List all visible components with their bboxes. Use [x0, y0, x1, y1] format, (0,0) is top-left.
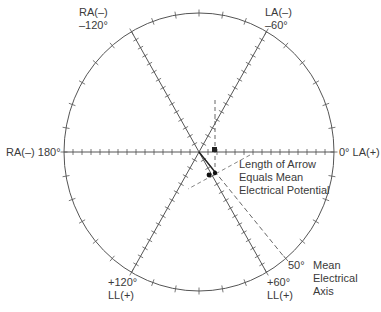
axis-tick: [151, 70, 156, 73]
label-ll-60: +60° LL(+): [267, 276, 293, 302]
label-arrow-note: Length of Arrow Equals Mean Electrical P…: [239, 158, 330, 197]
axis-tick: [205, 167, 210, 170]
circle-tick: [79, 220, 85, 224]
axis-tick: [165, 207, 170, 210]
label-line: –60°: [265, 19, 292, 32]
circle-tick: [130, 29, 134, 35]
label-la-minus-60: LA(–) –60°: [265, 6, 292, 32]
axis-tick: [250, 54, 255, 57]
axis-tick: [174, 110, 179, 113]
axis-tick: [201, 142, 206, 145]
label-line: –120°: [79, 19, 108, 32]
axis-tick: [165, 94, 170, 97]
axis-tick: [187, 134, 192, 137]
label-50-deg: 50°: [288, 259, 305, 272]
axis-tick: [205, 134, 210, 137]
axis-tick: [147, 62, 152, 65]
axis-tick: [228, 207, 233, 210]
axis-tick: [138, 255, 143, 258]
axis-tick: [255, 255, 260, 258]
axis-tick: [255, 46, 260, 49]
axis-tick: [178, 183, 183, 186]
axis-tick: [142, 54, 147, 57]
label-line: LL(+): [108, 289, 137, 302]
axis-tick: [156, 223, 161, 226]
label-line: Electrical: [313, 272, 358, 285]
axis-tick: [210, 126, 215, 129]
axis-tick: [151, 231, 156, 234]
axis-tick: [241, 70, 246, 73]
circle-tick: [265, 269, 269, 275]
axis-tick: [160, 215, 165, 218]
circle-tick: [79, 81, 85, 85]
axis-tick: [192, 142, 197, 145]
label-line: RA(–): [79, 6, 108, 19]
label-line: Equals Mean: [239, 171, 330, 184]
arrow-head-dot: [213, 171, 217, 175]
axis-tick: [183, 175, 188, 178]
label-line: +120°: [108, 276, 137, 289]
label-line: LA(–): [265, 6, 292, 19]
axis-tick: [241, 231, 246, 234]
axis-tick: [192, 159, 197, 162]
axis-tick: [214, 118, 219, 121]
label-line: +60°: [267, 276, 293, 289]
axis-tick: [142, 247, 147, 250]
axis-tick: [133, 38, 138, 41]
axis-tick: [160, 86, 165, 89]
axis-tick: [228, 94, 233, 97]
axis-tick: [187, 167, 192, 170]
axis-tick: [183, 126, 188, 129]
label-line: LL(+): [267, 289, 293, 302]
label-ra-minus-120: RA(–) –120°: [79, 6, 108, 32]
axis-tick: [246, 239, 251, 242]
label-line: Axis: [313, 285, 358, 298]
axis-tick: [174, 191, 179, 194]
label-line: Mean: [313, 259, 358, 272]
circle-tick: [313, 220, 319, 224]
axis-tick: [169, 199, 174, 202]
axis-tick: [156, 78, 161, 81]
axis-tick: [223, 199, 228, 202]
label-line: Length of Arrow: [239, 158, 330, 171]
axis-tick: [237, 78, 242, 81]
axis-tick: [232, 86, 237, 89]
right-angle-marker: [212, 147, 217, 152]
axis-tick: [219, 110, 224, 113]
axis-tick: [223, 102, 228, 105]
label-la-0: 0° LA(+): [339, 146, 380, 159]
circle-tick: [130, 269, 134, 275]
label-mean-electrical-axis: Mean Electrical Axis: [313, 259, 358, 298]
label-ra-180: RA(–) 180°: [6, 146, 61, 159]
axis-tick: [138, 46, 143, 49]
axis-tick: [259, 263, 264, 266]
axis-tick: [246, 62, 251, 65]
label-ll-120: +120° LL(+): [108, 276, 137, 302]
axis-tick: [250, 247, 255, 250]
axis-tick: [232, 215, 237, 218]
axis-tick: [259, 38, 264, 41]
axis-tick: [214, 183, 219, 186]
axis-tick: [237, 223, 242, 226]
axis-tick: [133, 263, 138, 266]
projection-dot: [207, 173, 212, 178]
circle-tick: [313, 81, 319, 85]
axis-tick: [147, 239, 152, 242]
label-line: Electrical Potential: [239, 184, 330, 197]
axis-tick: [178, 118, 183, 121]
axis-tick: [219, 191, 224, 194]
axis-tick: [169, 102, 174, 105]
